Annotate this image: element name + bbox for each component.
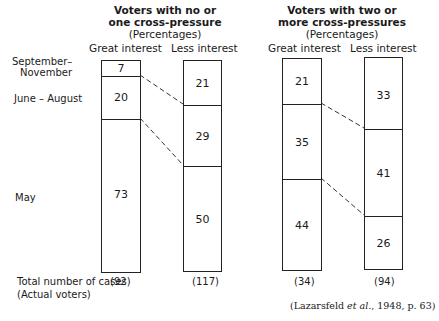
citation: (Lazarsfeld et al., 1948, p. 63) bbox=[290, 300, 435, 311]
segment-jun-aug: 29 bbox=[184, 105, 221, 166]
segment-may: 26 bbox=[365, 216, 402, 271]
value-label: 73 bbox=[102, 188, 140, 201]
total-g1-great: (92) bbox=[110, 276, 131, 287]
citation-suffix: , 1948, p. 63) bbox=[371, 300, 435, 311]
actual-voters-label: (Actual voters) bbox=[17, 289, 91, 300]
bar-g1-less-interest: 21 29 50 bbox=[183, 60, 222, 272]
segment-jun-aug: 41 bbox=[365, 129, 402, 216]
value-label: 21 bbox=[184, 77, 221, 90]
segment-jun-aug: 35 bbox=[283, 104, 321, 179]
total-g1-less: (117) bbox=[192, 276, 219, 287]
segment-sep-nov: 21 bbox=[184, 61, 221, 105]
segment-sep-nov: 33 bbox=[365, 58, 402, 129]
total-g2-less: (94) bbox=[374, 276, 395, 287]
value-label: 44 bbox=[283, 219, 321, 232]
citation-prefix: (Lazarsfeld bbox=[290, 300, 347, 311]
value-label: 41 bbox=[365, 167, 402, 180]
segment-sep-nov: 7 bbox=[102, 61, 140, 76]
value-label: 26 bbox=[365, 237, 402, 250]
value-label: 50 bbox=[184, 213, 221, 226]
value-label: 29 bbox=[184, 130, 221, 143]
value-label: 33 bbox=[365, 89, 402, 102]
value-label: 35 bbox=[283, 136, 321, 149]
value-label: 7 bbox=[102, 62, 140, 75]
value-label: 20 bbox=[102, 91, 140, 104]
segment-may: 44 bbox=[283, 179, 321, 272]
segment-may: 50 bbox=[184, 166, 221, 273]
segment-may: 73 bbox=[102, 119, 140, 274]
value-label: 21 bbox=[283, 75, 321, 88]
citation-italic: et al. bbox=[347, 300, 371, 311]
segment-sep-nov: 21 bbox=[283, 59, 321, 104]
bar-g2-less-interest: 33 41 26 bbox=[364, 57, 403, 270]
bar-g1-great-interest: 7 20 73 bbox=[101, 60, 141, 273]
bar-g2-great-interest: 21 35 44 bbox=[282, 58, 322, 271]
segment-jun-aug: 20 bbox=[102, 76, 140, 119]
total-g2-great: (34) bbox=[294, 276, 315, 287]
